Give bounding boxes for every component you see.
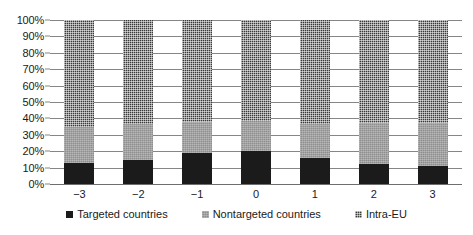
bar-segment xyxy=(359,20,389,123)
bar-segment xyxy=(123,160,153,184)
bar-segment xyxy=(359,164,389,184)
bar-group xyxy=(418,20,448,184)
bar-group xyxy=(64,20,94,184)
bar-segment xyxy=(418,20,448,123)
legend-item[interactable]: Nontargeted countries xyxy=(202,208,321,220)
bar-segment xyxy=(241,121,271,151)
x-tick-label: 2 xyxy=(371,188,377,200)
bar-segment xyxy=(64,127,94,163)
bar-stack xyxy=(123,20,153,184)
legend-item-label: Targeted countries xyxy=(77,208,168,220)
bar-group xyxy=(123,20,153,184)
y-tick-label: 50% xyxy=(0,97,44,108)
y-tick-label: 60% xyxy=(0,80,44,91)
bar-group xyxy=(300,20,330,184)
legend-item[interactable]: Targeted countries xyxy=(66,208,168,220)
chart-legend: Targeted countriesNontargeted countriesI… xyxy=(0,208,473,220)
y-tick-label: 10% xyxy=(0,162,44,173)
bar-segment xyxy=(64,20,94,127)
legend-item-label: Intra-EU xyxy=(366,208,407,220)
bar-segment xyxy=(300,124,330,158)
bar-segment xyxy=(182,20,212,122)
y-tick-label: 40% xyxy=(0,113,44,124)
y-tick-label: 20% xyxy=(0,146,44,157)
bar-segment xyxy=(300,158,330,184)
bar-segment xyxy=(182,153,212,184)
plot-area xyxy=(50,20,462,184)
y-tick-label: 80% xyxy=(0,47,44,58)
y-tick-label: 30% xyxy=(0,129,44,140)
bar-stack xyxy=(300,20,330,184)
legend-swatch-nontargeted-countries xyxy=(202,211,209,218)
legend-item-label: Nontargeted countries xyxy=(213,208,321,220)
y-tick-label: 70% xyxy=(0,64,44,75)
x-tick-label: 1 xyxy=(312,188,318,200)
bar-stack xyxy=(418,20,448,184)
y-tick-label: 0% xyxy=(0,179,44,190)
legend-swatch-intra-eu xyxy=(355,211,362,218)
x-axis: −3−2−10123 xyxy=(50,186,462,204)
bar-stack xyxy=(182,20,212,184)
bar-stack xyxy=(64,20,94,184)
bar-segment xyxy=(418,166,448,184)
bar-stack xyxy=(241,20,271,184)
x-tick-label: −3 xyxy=(73,188,86,200)
axis-baseline xyxy=(50,184,462,185)
bar-segment xyxy=(123,124,153,160)
bar-segment xyxy=(359,123,389,164)
bar-segment xyxy=(241,151,271,184)
x-tick-label: 0 xyxy=(253,188,259,200)
y-tick-label: 100% xyxy=(0,15,44,26)
x-tick-label: −2 xyxy=(132,188,145,200)
bar-segment xyxy=(123,20,153,124)
bar-stack xyxy=(359,20,389,184)
bar-segment xyxy=(418,123,448,166)
y-axis: 0%10%20%30%40%50%60%70%80%90%100% xyxy=(0,20,44,184)
x-tick-label: −1 xyxy=(191,188,204,200)
stacked-bar-chart: 0%10%20%30%40%50%60%70%80%90%100% −3−2−1… xyxy=(0,0,473,235)
legend-swatch-targeted-countries xyxy=(66,211,73,218)
bar-group xyxy=(241,20,271,184)
bar-segment xyxy=(182,122,212,153)
y-tick-label: 90% xyxy=(0,31,44,42)
bar-group xyxy=(182,20,212,184)
bar-segment xyxy=(64,163,94,184)
bar-segment xyxy=(300,20,330,124)
x-tick-label: 3 xyxy=(430,188,436,200)
legend-item[interactable]: Intra-EU xyxy=(355,208,407,220)
bar-group xyxy=(359,20,389,184)
bar-segment xyxy=(241,20,271,121)
